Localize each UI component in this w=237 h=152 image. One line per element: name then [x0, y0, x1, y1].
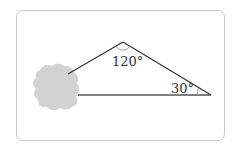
right-angle-label: 30°	[171, 81, 194, 96]
ink-blob	[33, 64, 79, 111]
right-angle-arc	[197, 88, 199, 95]
apex-angle-arc	[116, 46, 130, 50]
triangle-diagram: 120° 30°	[0, 0, 237, 152]
apex-angle-label: 120°	[112, 54, 143, 69]
